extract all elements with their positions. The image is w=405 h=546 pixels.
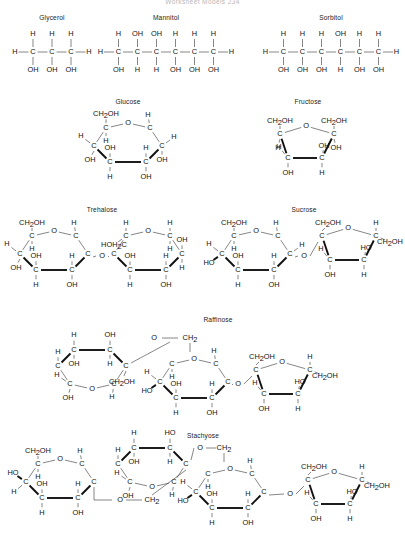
atom-label: C	[209, 503, 215, 512]
atom-label: O	[253, 226, 259, 235]
atom-label: O	[279, 357, 285, 366]
atom-label: H	[78, 131, 83, 140]
bond	[108, 256, 109, 257]
atom-label: C	[107, 345, 113, 354]
atom-label: H	[115, 445, 120, 454]
atom-label: C	[173, 47, 179, 56]
bond	[29, 468, 35, 478]
bond	[261, 363, 277, 368]
atom-label: H	[4, 239, 9, 248]
atom-label: H	[211, 29, 216, 38]
atom-label: H	[167, 218, 172, 227]
molecule-stachyose: Stachyose COCCCCCCH2OHHHOHHOHHHOHOCH2COC…	[2, 432, 404, 544]
atom-label: C	[319, 153, 325, 162]
atom-label: OH	[132, 29, 143, 38]
bold-bond	[82, 486, 91, 495]
bond	[65, 460, 77, 463]
atom-label: C	[211, 47, 217, 56]
atom-label: H	[11, 487, 16, 496]
atom-label: OH	[84, 155, 95, 164]
atom-label: C	[347, 499, 353, 508]
atom-label: C	[157, 377, 163, 386]
structure-stachyose: COCCCCCCH2OHHHOHHOHHHOHOCH2COCCCCCOHHHHO…	[2, 432, 404, 544]
atom-label: H	[173, 408, 178, 417]
bond	[93, 256, 96, 257]
atom-label: OH	[104, 143, 115, 152]
bond	[244, 376, 252, 384]
atom-label: OH	[66, 280, 77, 289]
bold-bond	[174, 452, 183, 461]
molecule-title-sucrose: Sucrose	[204, 206, 404, 213]
atom-label: C	[91, 141, 97, 150]
atom-label: H	[145, 110, 150, 119]
atom-label: OH	[160, 280, 171, 289]
atom-label: C	[147, 123, 153, 132]
atom-label: OH	[176, 235, 187, 244]
bond	[353, 229, 371, 234]
atom-label: H	[359, 462, 364, 471]
atom-label: O	[235, 379, 241, 388]
atom-label: H	[273, 218, 278, 227]
bond	[239, 232, 251, 235]
bond	[97, 132, 103, 142]
atom-label: C	[17, 249, 23, 258]
atom-label: O	[125, 118, 131, 127]
bond	[199, 478, 205, 488]
atom-label: C	[69, 265, 75, 274]
atom-label: OH	[208, 65, 219, 74]
atom-label: CH2OH	[249, 352, 275, 363]
atom-label: H	[77, 446, 82, 455]
structure-raffinose: COCCCCCOHHHHOHHHOHCH2OHOCH2COCCCCCHHHOHO…	[34, 316, 402, 428]
atom-label: C	[103, 123, 109, 132]
atom-label: C	[131, 443, 137, 452]
atom-label: H	[394, 47, 399, 56]
bond	[232, 384, 233, 385]
atom-label: O	[227, 464, 233, 473]
atom-label: C	[127, 477, 133, 486]
bond	[310, 242, 318, 256]
atom-label: H	[171, 132, 176, 141]
atom-label: C	[249, 469, 255, 478]
atom-label: OH	[297, 65, 308, 74]
bond	[235, 470, 247, 473]
atom-label: H	[206, 239, 211, 248]
atom-label: H	[114, 468, 119, 477]
atom-label: H	[347, 514, 352, 523]
atom-label: C	[135, 47, 141, 56]
atom-label: OH	[324, 270, 335, 279]
atom-label: H	[209, 379, 214, 388]
atom-label: H	[144, 367, 149, 376]
atom-label: H	[39, 508, 44, 517]
atom-label: C	[30, 47, 36, 56]
bond	[281, 240, 287, 250]
atom-label: C	[225, 377, 231, 386]
molecule-title-trehalose: Trehalose	[2, 206, 202, 213]
atom-label: H	[167, 457, 172, 466]
molecule-fructose: Fructose COCCCCH2OHHCH2OHOHHOHOHH	[240, 98, 376, 196]
atom-label: HO	[360, 243, 371, 252]
bold-bond	[76, 258, 85, 267]
bond	[261, 232, 273, 235]
atom-label: H	[247, 456, 252, 465]
atom-label: C	[154, 47, 160, 56]
atom-label: CH2	[217, 443, 232, 454]
bond	[75, 385, 87, 388]
bond	[97, 385, 109, 388]
atom-label: OH	[242, 518, 253, 527]
bond	[43, 460, 55, 463]
atom-label: C	[183, 459, 189, 468]
atom-label: OH	[30, 251, 41, 260]
atom-label: HO	[7, 468, 18, 477]
bond	[255, 478, 261, 488]
atom-label: C	[253, 365, 259, 374]
atom-label: CH2OH	[321, 116, 347, 127]
atom-label: C	[167, 231, 173, 240]
atom-label: C	[71, 345, 77, 354]
atom-label: HO	[203, 258, 214, 267]
bold-bond	[278, 258, 287, 267]
structure-sorbitol: HHCHOHCHOHCHOHCOHHCHOHCHOH	[268, 14, 394, 88]
structure-mannitol: HHCHOHCOHHCOHHCHOHCHOHCHOH	[110, 14, 222, 88]
atom-label: H	[361, 270, 366, 279]
bond	[135, 483, 147, 486]
atom-label: H	[300, 29, 305, 38]
